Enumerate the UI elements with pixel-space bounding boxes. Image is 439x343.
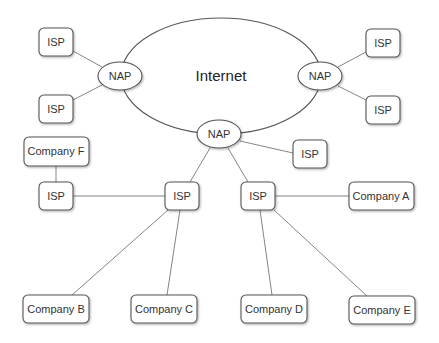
- isp-mid-left[interactable]: ISP: [39, 95, 73, 123]
- svg-text:Company E: Company E: [353, 304, 410, 316]
- company-f[interactable]: Company F: [24, 137, 89, 166]
- isp-top-right[interactable]: ISP: [366, 29, 400, 57]
- company-c[interactable]: Company C: [131, 295, 197, 323]
- svg-text:Company A: Company A: [353, 190, 411, 202]
- isp-mid-right[interactable]: ISP: [366, 96, 400, 124]
- svg-text:ISP: ISP: [374, 104, 392, 116]
- internet-label: Internet: [196, 67, 248, 84]
- isp-bottom-nap[interactable]: ISP: [293, 140, 327, 168]
- company-b[interactable]: Company B: [23, 295, 89, 323]
- svg-text:ISP: ISP: [47, 190, 65, 202]
- company-e[interactable]: Company E: [349, 296, 415, 324]
- svg-text:ISP: ISP: [301, 148, 319, 160]
- company-d[interactable]: Company D: [241, 295, 307, 323]
- svg-text:Company C: Company C: [135, 303, 193, 315]
- nap-left[interactable]: NAP: [98, 62, 142, 90]
- svg-text:ISP: ISP: [47, 36, 65, 48]
- nap-bottom[interactable]: NAP: [197, 120, 241, 148]
- svg-text:Company F: Company F: [28, 145, 85, 157]
- isp-top-left[interactable]: ISP: [39, 28, 73, 56]
- network-diagram: Internet NAP NAP NAP ISP ISP ISP ISP ISP…: [0, 0, 439, 343]
- svg-text:ISP: ISP: [374, 37, 392, 49]
- svg-text:Company D: Company D: [245, 303, 303, 315]
- svg-text:Company B: Company B: [27, 303, 84, 315]
- svg-text:NAP: NAP: [208, 128, 231, 140]
- isp-center-left[interactable]: ISP: [165, 182, 199, 210]
- internet-cloud: Internet: [121, 18, 321, 134]
- svg-text:ISP: ISP: [47, 103, 65, 115]
- svg-text:NAP: NAP: [309, 70, 332, 82]
- svg-text:NAP: NAP: [109, 70, 132, 82]
- company-a[interactable]: Company A: [349, 182, 414, 210]
- nap-right[interactable]: NAP: [298, 62, 342, 90]
- isp-company-f[interactable]: ISP: [39, 182, 73, 210]
- svg-text:ISP: ISP: [249, 190, 267, 202]
- isp-center-right[interactable]: ISP: [241, 182, 275, 210]
- svg-text:ISP: ISP: [173, 190, 191, 202]
